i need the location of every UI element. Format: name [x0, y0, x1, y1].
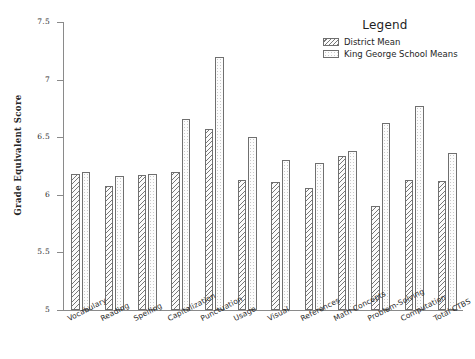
legend-item-label: King George School Means — [344, 49, 458, 59]
legend: Legend District MeanKing George School M… — [305, 18, 465, 61]
legend-entries: District MeanKing George School Means — [305, 37, 465, 59]
legend-item: District Mean — [323, 37, 465, 47]
bar — [438, 181, 447, 310]
bar — [238, 180, 247, 310]
bar — [271, 182, 280, 310]
bar — [305, 188, 314, 310]
bar — [315, 163, 324, 310]
bar — [148, 174, 157, 310]
bar — [382, 123, 391, 310]
bar — [282, 160, 291, 310]
legend-swatch-icon — [323, 38, 339, 46]
bar — [171, 172, 180, 310]
bar-chart: 7.576.565.55 Grade Equivalent Score Voca… — [0, 0, 475, 359]
bar — [205, 129, 214, 310]
bar — [448, 153, 457, 310]
legend-item-label: District Mean — [344, 37, 400, 47]
y-tick-label: 7.5 — [20, 17, 50, 26]
bar — [82, 172, 91, 310]
y-tick-label: 6.5 — [20, 132, 50, 141]
legend-title: Legend — [305, 18, 465, 32]
legend-item: King George School Means — [323, 49, 465, 59]
bar — [105, 186, 114, 310]
y-tick-label: 5 — [20, 305, 50, 314]
bar — [71, 174, 80, 310]
bars-container — [63, 22, 463, 310]
bar — [415, 106, 424, 310]
y-tick-label: 7 — [20, 75, 50, 84]
bar — [338, 156, 347, 310]
bar — [138, 175, 147, 310]
bar — [348, 151, 357, 310]
bar — [115, 176, 124, 310]
y-tick-label: 5.5 — [20, 247, 50, 256]
bar — [215, 57, 224, 310]
y-tick — [57, 310, 63, 311]
y-axis-title: Grade Equivalent Score — [13, 45, 23, 265]
bar — [182, 119, 191, 310]
y-tick-label: 6 — [20, 190, 50, 199]
bar — [248, 137, 257, 310]
legend-swatch-icon — [323, 50, 339, 58]
